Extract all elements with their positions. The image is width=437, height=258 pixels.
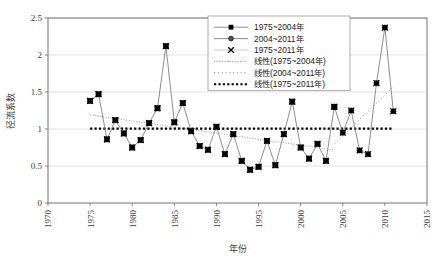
y-tick-label: 1.5 [31,87,43,97]
y-tick-label: 1 [38,124,43,134]
x-axis-title: 年份 [229,243,247,254]
legend-label: 线性(1975~2004年) [254,56,326,66]
x-tick-label: 1985 [170,210,180,229]
y-axis-title: 径流系数 [5,93,16,129]
legend-label: 1975~2011年 [254,45,304,55]
legend-label: 线性(1975~2011年) [254,79,325,89]
x-tick-label: 2010 [380,210,390,229]
x-tick-label: 2015 [422,210,432,229]
x-tick-label: 2005 [338,210,348,229]
chart-legend: 1975~2004年2004~2011年1975~2011年线性(1975~20… [208,16,350,90]
y-tick-label: 2 [38,50,43,60]
x-tick-label: 1980 [128,210,138,229]
runoff-coefficient-chart: 00.511.522.5 197019751980198519901995200… [0,0,437,258]
chart-canvas: 00.511.522.5 197019751980198519901995200… [0,0,437,258]
legend-label: 1975~2004年 [254,22,304,32]
legend-label: 2004~2011年 [254,34,304,44]
x-tick-label: 1995 [254,210,264,229]
y-tick-label: 2.5 [31,13,43,23]
legend-label: 线性(2004~2011年) [254,68,325,78]
x-tick-label: 1990 [212,210,222,229]
x-tick-label: 2000 [296,210,306,229]
y-tick-label: 0 [38,198,43,208]
x-tick-label: 1975 [86,210,96,229]
x-tick-label: 1970 [43,210,53,229]
y-tick-label: 0.5 [31,161,43,171]
